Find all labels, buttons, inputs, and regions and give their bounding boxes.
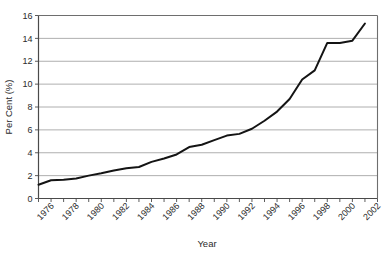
y-tick-label: 12 (22, 56, 32, 66)
x-tick-label: 1992 (236, 201, 257, 222)
y-tick-label: 0 (27, 194, 32, 204)
x-axis-tick-labels: 1976197819801982198419861988199019921994… (35, 201, 383, 222)
y-tick-label: 10 (22, 79, 32, 89)
y-axis-title: Per Cent (%) (3, 80, 14, 135)
x-tick-label: 1976 (35, 201, 56, 222)
y-tick-label: 14 (22, 34, 32, 44)
chart-figure: 0246810121416 19761978198019821984198619… (0, 0, 391, 253)
x-tick-label: 1996 (286, 201, 307, 222)
x-tick-label: 1990 (211, 201, 232, 222)
x-tick-label: 1986 (160, 201, 181, 222)
y-tick-label: 2 (27, 171, 32, 181)
x-tick-label: 2000 (336, 201, 357, 222)
x-tick-label: 1984 (135, 201, 156, 222)
x-tick-label: 1978 (60, 201, 81, 222)
x-tick-label: 1982 (110, 201, 131, 222)
y-tick-label: 4 (27, 148, 32, 158)
x-tick-label: 1988 (185, 201, 206, 222)
y-tick-label: 8 (27, 102, 32, 112)
y-tick-label: 6 (27, 125, 32, 135)
y-tick-label: 16 (22, 11, 32, 21)
x-tick-label: 1994 (261, 201, 282, 222)
x-axis-title: Year (197, 238, 216, 249)
data-series-group (39, 24, 365, 185)
line-chart: 0246810121416 19761978198019821984198619… (0, 0, 391, 253)
data-series-line (39, 24, 365, 185)
x-tick-label: 2002 (361, 201, 382, 222)
x-tick-label: 1980 (85, 201, 106, 222)
x-tick-label: 1998 (311, 201, 332, 222)
y-axis-tick-labels: 0246810121416 (22, 11, 32, 204)
gridlines-group (39, 38, 378, 175)
